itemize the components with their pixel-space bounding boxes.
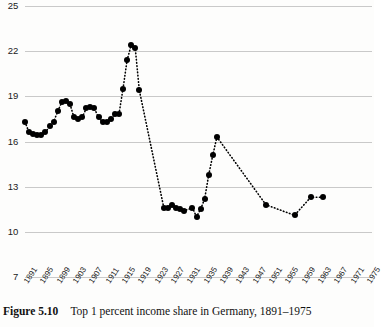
figure-label: Figure 5.10: [3, 305, 58, 317]
data-point: [22, 119, 28, 125]
data-point: [181, 208, 187, 214]
data-connector-lines: [0, 0, 374, 300]
data-point: [206, 172, 212, 178]
data-point: [198, 206, 204, 212]
data-point: [263, 202, 269, 208]
data-point: [202, 196, 208, 202]
data-point: [120, 86, 126, 92]
series-connector-path: [25, 45, 323, 217]
data-point: [292, 212, 298, 218]
chart-plot-area: 7101316192225: [0, 0, 374, 300]
figure-caption-text: Top 1 percent income share in Germany, 1…: [70, 305, 311, 317]
figure-caption: Figure 5.10Top 1 percent income share in…: [3, 305, 371, 317]
data-point: [194, 214, 200, 220]
data-point: [214, 134, 220, 140]
data-point: [308, 194, 314, 200]
data-point: [67, 101, 73, 107]
x-axis-tick-labels: 1891189518991903190719111915191919231927…: [0, 277, 374, 303]
data-point: [108, 116, 114, 122]
data-point: [210, 152, 216, 158]
data-point: [51, 119, 57, 125]
